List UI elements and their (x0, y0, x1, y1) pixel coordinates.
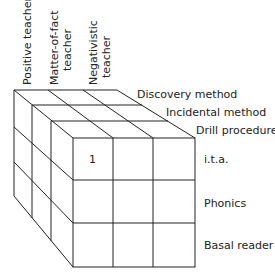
teacher-label-negativistic-1: Negativistic (87, 20, 100, 85)
method-label-drill: Drill procedure (196, 124, 275, 137)
method-labels: Discovery method Incidental method Drill… (137, 88, 275, 137)
teacher-label-negativistic-2: teacher (100, 35, 113, 78)
material-label-ita: i.t.a. (204, 153, 229, 166)
teacher-label-matter-of-fact-1: Matter-of-fact (48, 10, 61, 85)
material-label-phonics: Phonics (204, 197, 246, 210)
teacher-label-matter-of-fact-2: teacher (61, 28, 74, 71)
method-label-discovery: Discovery method (137, 88, 237, 101)
material-labels: i.t.a. Phonics Basal reader (204, 153, 274, 252)
teacher-label-positive: Positive teacher (21, 0, 34, 85)
cell-label-1: 1 (89, 153, 96, 166)
material-label-basal-reader: Basal reader (204, 239, 274, 252)
teacher-type-labels: Positive teacher Matter-of-fact teacher … (21, 0, 113, 85)
method-label-incidental: Incidental method (166, 106, 266, 119)
three-dimensional-factorial-cube: Positive teacher Matter-of-fact teacher … (0, 0, 275, 278)
